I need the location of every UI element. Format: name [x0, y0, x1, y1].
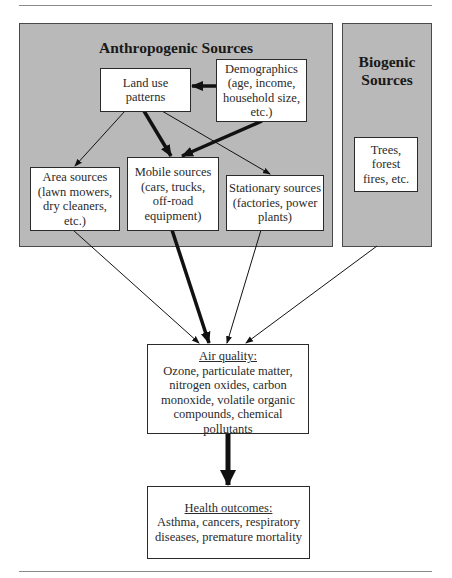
- stationary-sources-line-1: Stationary sources: [229, 181, 321, 196]
- health-outcomes-node: Health outcomes: Asthma, cancers, respir…: [147, 486, 310, 559]
- air-quality-node: Air quality: Ozone, particulate matter, …: [147, 344, 309, 434]
- health-outcomes-line-2: diseases, premature mortality: [155, 530, 302, 545]
- land-use-line-1: Land use: [123, 76, 168, 91]
- area-sources-line-2: (lawn mowers,: [38, 185, 112, 200]
- air-quality-line-1: Ozone, particulate matter,: [163, 364, 292, 379]
- area-sources-line-3: dry cleaners,: [43, 199, 107, 214]
- air-quality-heading: Air quality:: [199, 349, 257, 364]
- biogenic-sources-group: Biogenic Sources: [342, 23, 432, 247]
- demographics-line-1: Demographics: [225, 62, 298, 77]
- demographics-line-3: household size,: [223, 91, 300, 106]
- demographics-node: Demographics (age, income, household siz…: [216, 59, 307, 122]
- demographics-line-2: (age, income,: [228, 76, 296, 91]
- trees-node: Trees, forest fires, etc.: [354, 137, 418, 192]
- mobile-sources-node: Mobile sources (cars, trucks, off-road e…: [127, 157, 219, 231]
- air-quality-line-4: compounds, chemical pollutants: [148, 407, 308, 436]
- mobile-sources-line-1: Mobile sources: [135, 165, 212, 180]
- biogenic-title-line-1: Biogenic: [343, 53, 431, 71]
- health-outcomes-line-1: Asthma, cancers, respiratory: [157, 515, 300, 530]
- stationary-sources-node: Stationary sources (factories, power pla…: [226, 175, 324, 231]
- demographics-line-4: etc.): [251, 105, 273, 120]
- area-sources-node: Area sources (lawn mowers, dry cleaners,…: [30, 167, 120, 231]
- mobile-sources-line-2: (cars, trucks,: [141, 180, 205, 195]
- top-rule: [19, 5, 432, 6]
- anthropogenic-sources-title: Anthropogenic Sources: [20, 39, 332, 57]
- health-outcomes-heading: Health outcomes:: [185, 501, 273, 516]
- mobile-sources-line-3: off-road: [153, 194, 194, 209]
- edge-biogenic-to-air-quality: [246, 246, 377, 343]
- mobile-sources-line-4: equipment): [145, 209, 202, 224]
- land-use-patterns-node: Land use patterns: [100, 68, 191, 112]
- trees-line-3: fires, etc.: [363, 172, 409, 187]
- air-quality-line-2: nitrogen oxides, carbon: [169, 378, 287, 393]
- stationary-sources-line-3: plants): [258, 210, 292, 225]
- land-use-line-2: patterns: [126, 90, 166, 105]
- biogenic-title-line-2: Sources: [343, 71, 431, 89]
- area-sources-line-1: Area sources: [43, 170, 108, 185]
- biogenic-sources-title: Biogenic Sources: [343, 53, 431, 89]
- trees-line-1: Trees,: [371, 143, 401, 158]
- bottom-rule: [19, 571, 432, 572]
- area-sources-line-4: etc.): [64, 214, 86, 229]
- stationary-sources-line-2: (factories, power: [233, 196, 318, 211]
- trees-line-2: forest: [372, 157, 400, 172]
- air-quality-line-3: monoxide, volatile organic: [161, 393, 295, 408]
